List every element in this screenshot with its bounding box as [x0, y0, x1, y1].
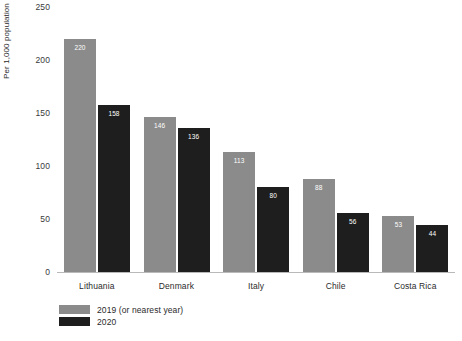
bar-value-label: 220 [64, 44, 96, 51]
bar-group: 11380 [216, 7, 296, 272]
bar-value-label: 88 [303, 184, 335, 191]
bar-group: 8856 [296, 7, 376, 272]
x-tick-label: Lithuania [52, 281, 142, 291]
bar-group: 220158 [57, 7, 137, 272]
y-tick-label: 0 [16, 267, 50, 277]
legend-label: 2020 [97, 317, 116, 327]
x-axis-line [57, 272, 455, 273]
bar-group: 5344 [375, 7, 455, 272]
bar-value-label: 136 [178, 133, 210, 140]
y-tick-label: 100 [16, 161, 50, 171]
y-tick-label: 150 [16, 108, 50, 118]
bar: 146 [144, 117, 176, 272]
bar: 158 [98, 105, 130, 272]
y-tick-label: 50 [16, 214, 50, 224]
bar-chart: Per 1,000 population 050100150200250 220… [0, 0, 462, 341]
bar: 53 [382, 216, 414, 272]
bar: 56 [337, 213, 369, 272]
bar-value-label: 53 [382, 221, 414, 228]
x-tick-label: Chile [291, 281, 381, 291]
bar: 88 [303, 179, 335, 272]
y-axis-title: Per 1,000 population [2, 0, 11, 96]
bar: 220 [64, 39, 96, 272]
y-tick-label: 200 [16, 55, 50, 65]
bar: 113 [223, 152, 255, 272]
legend: 2019 (or nearest year)2020 [59, 304, 183, 328]
bar-value-label: 158 [98, 110, 130, 117]
bar-value-label: 80 [257, 192, 289, 199]
bar: 44 [416, 225, 448, 272]
legend-label: 2019 (or nearest year) [97, 305, 183, 315]
bar-value-label: 146 [144, 122, 176, 129]
bar: 80 [257, 187, 289, 272]
x-tick-label: Denmark [131, 281, 221, 291]
bar: 136 [178, 128, 210, 272]
bar-value-label: 113 [223, 157, 255, 164]
bar-value-label: 56 [337, 218, 369, 225]
legend-swatch [59, 317, 90, 326]
plot-area: 2201581461361138088565344 [57, 7, 455, 272]
legend-item[interactable]: 2019 (or nearest year) [59, 304, 183, 315]
y-tick-label: 250 [16, 2, 50, 12]
bar-value-label: 44 [416, 230, 448, 237]
x-tick-label: Costa Rica [370, 281, 460, 291]
legend-item[interactable]: 2020 [59, 316, 183, 327]
bar-group: 146136 [137, 7, 217, 272]
legend-swatch [59, 305, 90, 314]
x-tick-label: Italy [211, 281, 301, 291]
